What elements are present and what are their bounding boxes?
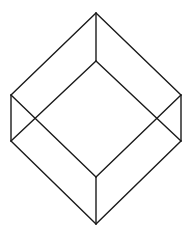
wireframe-cube — [0, 0, 192, 237]
edge-right_top-inner_bottom — [96, 95, 181, 177]
edge-left_top-inner_bottom — [11, 95, 96, 177]
cube-diagram — [0, 0, 192, 237]
edge-left_bottom-bottom — [11, 141, 96, 224]
edge-top-left_top — [11, 13, 96, 95]
edge-inner_top-right_bottom — [96, 61, 181, 141]
edge-inner_top-left_bottom — [11, 61, 96, 141]
edge-right_bottom-bottom — [96, 141, 181, 224]
edge-top-right_top — [96, 13, 181, 95]
